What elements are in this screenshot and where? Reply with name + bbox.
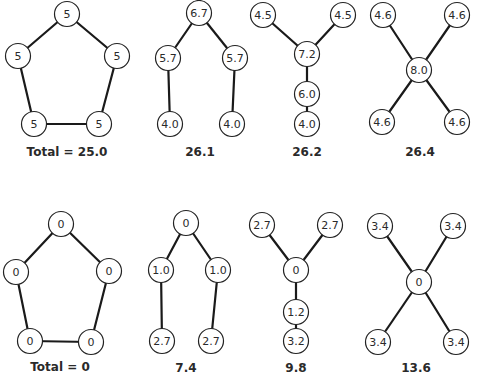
node-label: 5.7 xyxy=(159,52,177,65)
node-label: 1.0 xyxy=(152,264,170,277)
node-label: 2.7 xyxy=(253,219,271,232)
node-label: 7.2 xyxy=(298,48,316,61)
node-label: 4.6 xyxy=(448,9,466,22)
node-label: 2.7 xyxy=(153,335,171,348)
node-label: 0 xyxy=(416,276,423,289)
graph-bottom-pentagon: 00000Total = 0 xyxy=(4,212,122,375)
node-label: 6.0 xyxy=(298,88,316,101)
graph-node: 6.0 xyxy=(295,82,320,107)
graph-node: 3.2 xyxy=(284,329,309,354)
graph-caption: Total = 25.0 xyxy=(27,145,108,159)
node-label: 4.5 xyxy=(254,9,272,22)
graph-top-y-chain: 4.54.57.26.04.026.2 xyxy=(251,3,356,160)
graph-node: 5 xyxy=(55,2,80,27)
graph-node: 2.7 xyxy=(318,213,343,238)
node-label: 4.5 xyxy=(334,9,352,22)
graph-node: 3.4 xyxy=(368,214,393,239)
node-label: 4.0 xyxy=(161,118,179,131)
node-label: 3.4 xyxy=(371,220,389,233)
node-label: 0 xyxy=(183,217,190,230)
node-label: 4.6 xyxy=(448,116,466,129)
graph-bottom-two-branch: 01.01.02.72.77.4 xyxy=(149,211,231,376)
graph-node: 1.0 xyxy=(149,258,174,283)
graph-node: 6.7 xyxy=(187,1,212,26)
graph-node: 0 xyxy=(174,211,199,236)
node-label: 0 xyxy=(58,218,65,231)
graph-node: 4.5 xyxy=(251,3,276,28)
graph-node: 0 xyxy=(18,329,43,354)
node-label: 0 xyxy=(293,264,300,277)
graph-node: 0 xyxy=(284,258,309,283)
graph-node: 8.0 xyxy=(407,58,432,83)
graph-node: 5.7 xyxy=(156,46,181,71)
node-label: 4.6 xyxy=(374,9,392,22)
graph-node: 1.2 xyxy=(284,300,309,325)
node-label: 5.7 xyxy=(226,52,244,65)
graph-top-pentagon: 55555Total = 25.0 xyxy=(6,2,130,160)
node-label: 1.0 xyxy=(209,264,227,277)
node-label: 0 xyxy=(27,335,34,348)
node-label: 5 xyxy=(64,8,71,21)
graph-node: 0 xyxy=(407,270,432,295)
graph-node: 3.4 xyxy=(441,214,466,239)
graph-node: 4.0 xyxy=(295,112,320,137)
graph-caption: 9.8 xyxy=(285,361,306,375)
graph-bottom-y-chain: 2.72.701.23.29.8 xyxy=(250,213,343,376)
graph-node: 0 xyxy=(97,259,122,284)
node-label: 3.2 xyxy=(287,335,305,348)
graph-node: 0 xyxy=(79,330,104,355)
graph-caption: 26.2 xyxy=(292,145,322,159)
graph-top-two-branch: 6.75.75.74.04.026.1 xyxy=(156,1,248,160)
node-label: 5 xyxy=(31,118,38,131)
graph-node: 1.0 xyxy=(206,258,231,283)
node-label: 0 xyxy=(88,336,95,349)
graph-node: 2.7 xyxy=(250,213,275,238)
node-label: 4.0 xyxy=(298,118,316,131)
graph-node: 4.5 xyxy=(331,3,356,28)
graph-node: 4.6 xyxy=(445,3,470,28)
graph-node: 4.6 xyxy=(445,110,470,135)
graph-top-star: 4.64.68.04.64.626.4 xyxy=(370,3,470,160)
graph-node: 4.0 xyxy=(158,112,183,137)
graph-caption: 13.6 xyxy=(401,361,431,375)
node-label: 4.0 xyxy=(223,118,241,131)
graph-node: 7.2 xyxy=(295,42,320,67)
graphs-root: 55555Total = 25.06.75.75.74.04.026.14.54… xyxy=(4,1,470,376)
graph-diagram-canvas: 55555Total = 25.06.75.75.74.04.026.14.54… xyxy=(0,0,485,385)
node-label: 8.0 xyxy=(410,64,428,77)
node-label: 2.7 xyxy=(321,219,339,232)
node-label: 0 xyxy=(106,265,113,278)
node-label: 5 xyxy=(15,50,22,63)
graph-node: 2.7 xyxy=(150,329,175,354)
graph-node: 3.4 xyxy=(444,330,469,355)
node-label: 2.7 xyxy=(202,335,220,348)
graph-node: 0 xyxy=(49,212,74,237)
graph-node: 5 xyxy=(87,112,112,137)
graph-node: 5.7 xyxy=(223,46,248,71)
node-label: 3.4 xyxy=(444,220,462,233)
graph-node: 5 xyxy=(105,44,130,69)
node-label: 0 xyxy=(13,266,20,279)
node-label: 4.6 xyxy=(373,116,391,129)
graph-node: 0 xyxy=(4,260,29,285)
node-label: 6.7 xyxy=(190,7,208,20)
node-label: 5 xyxy=(96,118,103,131)
graph-caption: Total = 0 xyxy=(30,360,90,374)
graph-node: 5 xyxy=(22,112,47,137)
node-label: 3.4 xyxy=(447,336,465,349)
graph-caption: 26.1 xyxy=(185,145,215,159)
graph-bottom-star: 3.43.403.43.413.6 xyxy=(366,214,469,376)
graph-node: 3.4 xyxy=(366,330,391,355)
graph-caption: 7.4 xyxy=(175,361,196,375)
graph-node: 5 xyxy=(6,44,31,69)
graph-node: 2.7 xyxy=(199,329,224,354)
graph-node: 4.6 xyxy=(371,3,396,28)
node-label: 1.2 xyxy=(287,306,305,319)
graph-node: 4.0 xyxy=(220,112,245,137)
node-label: 3.4 xyxy=(369,336,387,349)
graph-caption: 26.4 xyxy=(405,145,435,159)
node-label: 5 xyxy=(114,50,121,63)
graph-node: 4.6 xyxy=(370,110,395,135)
